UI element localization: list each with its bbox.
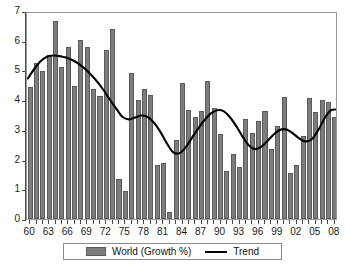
x-axis-tick-mark bbox=[80, 220, 81, 224]
x-axis-tick-label: 78 bbox=[138, 226, 149, 238]
x-axis-tick-label: 63 bbox=[43, 226, 54, 238]
x-axis-tick-label: 66 bbox=[62, 226, 73, 238]
x-axis-tick-mark bbox=[99, 220, 100, 224]
x-axis-tick-label: 84 bbox=[176, 226, 187, 238]
x-axis-tick-label: 93 bbox=[233, 226, 244, 238]
x-axis-tick-mark bbox=[194, 220, 195, 224]
y-axis-tick-label: 5 bbox=[14, 64, 20, 75]
x-axis-tick-label: 99 bbox=[271, 226, 282, 238]
y-axis-tick-label: 3 bbox=[14, 124, 20, 135]
y-axis-tick-label: 4 bbox=[14, 94, 20, 105]
x-axis-tick-mark bbox=[327, 220, 328, 224]
x-axis-tick-mark bbox=[48, 220, 49, 224]
x-axis-tick-mark bbox=[270, 220, 271, 224]
x-axis-tick-mark bbox=[220, 220, 221, 224]
x-axis-tick-mark bbox=[74, 220, 75, 224]
x-axis-tick-mark bbox=[245, 220, 246, 224]
x-axis-tick-mark bbox=[42, 220, 43, 224]
x-axis-tick-mark bbox=[67, 220, 68, 224]
x-axis-tick-label: 60 bbox=[24, 226, 35, 238]
x-axis-tick-mark bbox=[201, 220, 202, 224]
x-axis-tick-mark bbox=[112, 220, 113, 224]
x-axis-tick-label: 87 bbox=[195, 226, 206, 238]
y-axis-tick-label: 2 bbox=[14, 154, 20, 165]
y-axis-tick-label: 0 bbox=[14, 213, 20, 224]
chart-legend: World (Growth %) Trend bbox=[63, 243, 282, 260]
trend-line-series bbox=[27, 13, 336, 219]
legend-item-world-growth: World (Growth %) bbox=[86, 246, 191, 257]
x-axis-tick-mark bbox=[251, 220, 252, 224]
x-axis-tick-mark bbox=[36, 220, 37, 224]
x-axis-tick-mark bbox=[232, 220, 233, 224]
x-axis: 6063666972757881848790939699020508 bbox=[26, 220, 337, 242]
x-axis-tick-mark bbox=[334, 220, 335, 224]
x-axis-tick-mark bbox=[207, 220, 208, 224]
x-axis-tick-label: 75 bbox=[119, 226, 130, 238]
legend-item-trend: Trend bbox=[205, 246, 259, 257]
x-axis-tick-mark bbox=[29, 220, 30, 224]
y-axis-tick-label: 6 bbox=[14, 35, 20, 46]
x-axis-tick-mark bbox=[321, 220, 322, 224]
x-axis-tick-mark bbox=[61, 220, 62, 224]
x-axis-tick-mark bbox=[162, 220, 163, 224]
legend-bar-swatch-icon bbox=[86, 247, 106, 256]
x-axis-tick-mark bbox=[283, 220, 284, 224]
x-axis-tick-mark bbox=[264, 220, 265, 224]
legend-label-world-growth: World (Growth %) bbox=[112, 246, 191, 257]
x-axis-tick-mark bbox=[150, 220, 151, 224]
x-axis-tick-mark bbox=[289, 220, 290, 224]
x-axis-tick-mark bbox=[169, 220, 170, 224]
trend-path bbox=[28, 55, 336, 153]
x-axis-tick-mark bbox=[143, 220, 144, 224]
x-axis-tick-mark bbox=[308, 220, 309, 224]
x-axis-tick-mark bbox=[124, 220, 125, 224]
y-axis: 01234567 bbox=[0, 12, 26, 220]
x-axis-tick-label: 90 bbox=[214, 226, 225, 238]
legend-label-trend: Trend bbox=[233, 246, 259, 257]
x-axis-tick-mark bbox=[213, 220, 214, 224]
x-axis-tick-mark bbox=[55, 220, 56, 224]
x-axis-tick-mark bbox=[258, 220, 259, 224]
x-axis-tick-label: 96 bbox=[252, 226, 263, 238]
x-axis-tick-mark bbox=[296, 220, 297, 224]
growth-chart: 01234567 6063666972757881848790939699020… bbox=[0, 0, 345, 264]
x-axis-tick-mark bbox=[93, 220, 94, 224]
x-axis-tick-mark bbox=[118, 220, 119, 224]
x-axis-tick-mark bbox=[302, 220, 303, 224]
y-axis-tick-label: 1 bbox=[14, 183, 20, 194]
x-axis-tick-mark bbox=[239, 220, 240, 224]
x-axis-tick-mark bbox=[86, 220, 87, 224]
x-axis-tick-mark bbox=[156, 220, 157, 224]
x-axis-tick-mark bbox=[315, 220, 316, 224]
x-axis-tick-label: 08 bbox=[328, 226, 339, 238]
legend-line-swatch-icon bbox=[205, 251, 227, 253]
x-axis-tick-mark bbox=[277, 220, 278, 224]
x-axis-tick-mark bbox=[137, 220, 138, 224]
plot-area bbox=[26, 12, 337, 220]
x-axis-tick-label: 72 bbox=[100, 226, 111, 238]
x-axis-tick-mark bbox=[131, 220, 132, 224]
x-axis-tick-label: 05 bbox=[309, 226, 320, 238]
plot-inner bbox=[27, 13, 336, 219]
x-axis-tick-label: 69 bbox=[81, 226, 92, 238]
x-axis-tick-mark bbox=[175, 220, 176, 224]
x-axis-tick-mark bbox=[226, 220, 227, 224]
x-axis-tick-mark bbox=[182, 220, 183, 224]
x-axis-tick-label: 02 bbox=[290, 226, 301, 238]
x-axis-tick-mark bbox=[188, 220, 189, 224]
y-axis-tick-label: 7 bbox=[14, 5, 20, 16]
x-axis-tick-label: 81 bbox=[157, 226, 168, 238]
x-axis-tick-mark bbox=[105, 220, 106, 224]
